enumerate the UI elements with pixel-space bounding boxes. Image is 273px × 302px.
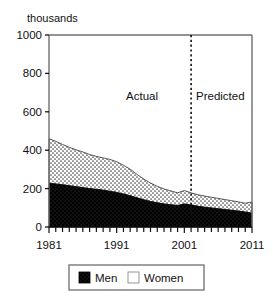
annotation-actual: Actual [126, 90, 158, 102]
legend-label-women: Women [144, 272, 183, 284]
x-tick-label: 2001 [172, 239, 198, 251]
y-tick-label: 800 [23, 67, 42, 79]
legend-swatch-women [128, 272, 139, 283]
chart-container: 02004006008001000 1981199120012011 thous… [0, 0, 273, 302]
x-axis-tick-labels: 1981199120012011 [36, 239, 264, 251]
legend-swatch-men [79, 272, 90, 283]
annotation-predicted: Predicted [196, 90, 245, 102]
legend: Men Women [69, 265, 204, 290]
area-chart: 02004006008001000 1981199120012011 thous… [0, 0, 273, 302]
x-tick-label: 1991 [104, 239, 130, 251]
y-tick-label: 0 [36, 221, 42, 233]
y-tick-label: 600 [23, 106, 42, 118]
y-tick-label: 200 [23, 183, 42, 195]
x-tick-label: 2011 [240, 239, 265, 251]
y-tick-label: 1000 [16, 29, 42, 41]
y-axis-title: thousands [27, 12, 78, 24]
y-tick-label: 400 [23, 144, 42, 156]
legend-label-men: Men [95, 272, 117, 284]
plot-area [49, 35, 252, 227]
x-tick-label: 1981 [36, 239, 62, 251]
x-axis-ticks [49, 227, 252, 233]
y-axis-tick-labels: 02004006008001000 [16, 29, 42, 233]
